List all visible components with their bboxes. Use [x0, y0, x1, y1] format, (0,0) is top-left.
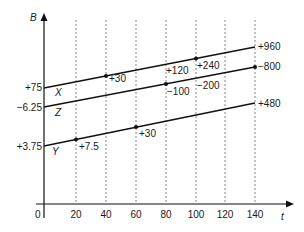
axes: [36, 20, 287, 218]
grid-lines: [76, 20, 255, 204]
svg-text:100: 100: [188, 209, 205, 220]
line-y-label-7-5: +7.5: [79, 141, 99, 152]
svg-text:80: 80: [160, 209, 172, 220]
svg-text:60: 60: [130, 209, 142, 220]
line-y-name: Y: [52, 146, 60, 157]
line-y-start-label: +3.75: [17, 141, 43, 152]
line-z-label-200: −200: [197, 80, 220, 91]
line-x-label-30: +30: [109, 73, 126, 84]
line-z-name: Z: [54, 107, 62, 118]
line-y-end-label: +480: [258, 98, 281, 109]
line-x-start-label: +75: [25, 82, 42, 93]
origin-label: 0: [35, 209, 41, 220]
x-tick-labels: 20 40 60 80 100 120 140: [70, 209, 263, 220]
x-axis-arrow-icon: [286, 201, 294, 208]
point-x-60: [104, 74, 108, 78]
point-y-60: [134, 125, 138, 129]
line-z-start-label: −6.25: [17, 102, 43, 113]
line-z-end-label: −800: [258, 61, 281, 72]
point-y-20: [74, 138, 78, 142]
svg-text:20: 20: [70, 209, 82, 220]
point-z-140: [253, 65, 257, 69]
x-axis-label: t: [281, 211, 285, 222]
line-y-label-30: +30: [139, 128, 156, 139]
svg-text:140: 140: [247, 209, 264, 220]
line-x-label-120: +120: [166, 65, 189, 76]
y-axis-arrow-icon: [41, 13, 48, 21]
svg-text:120: 120: [217, 209, 234, 220]
line-x-name: X: [54, 87, 62, 98]
line-x-label-240: +240: [197, 60, 220, 71]
svg-text:40: 40: [100, 209, 112, 220]
y-axis-label: B: [30, 12, 37, 23]
line-x-end-label: +960: [258, 41, 281, 52]
line-z-label-100: −100: [167, 86, 190, 97]
line-diagram: B t 0 20 40 60 80 100 120 140 +75 X +30 …: [0, 0, 304, 232]
